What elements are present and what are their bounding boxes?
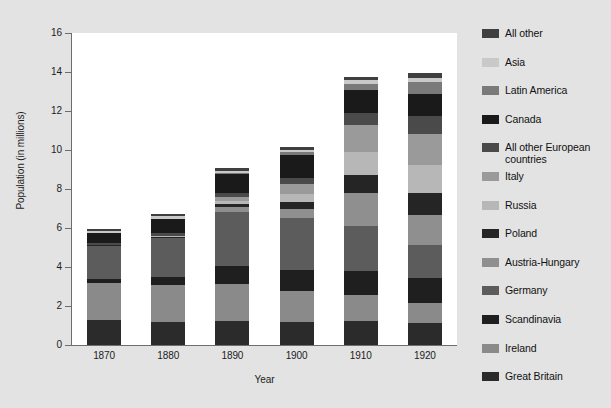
legend-swatch bbox=[482, 58, 499, 67]
x-tick-label: 1870 bbox=[74, 350, 134, 361]
x-tick-label: 1910 bbox=[331, 350, 391, 361]
x-tick-label: 1900 bbox=[267, 350, 327, 361]
stacked-bar bbox=[87, 33, 121, 345]
bar-segment bbox=[408, 116, 442, 134]
legend-label: Scandinavia bbox=[505, 314, 561, 326]
bar-segment bbox=[87, 246, 121, 279]
legend-swatch bbox=[482, 172, 499, 181]
chart-legend: All otherAsiaLatin AmericaCanadaAll othe… bbox=[482, 28, 610, 400]
bar-segment bbox=[344, 321, 378, 345]
legend-item: All other bbox=[482, 28, 610, 48]
y-tick-label: 14 bbox=[14, 67, 62, 77]
y-tick-mark bbox=[65, 345, 71, 346]
legend-item: Russia bbox=[482, 200, 610, 220]
stacked-bar bbox=[215, 33, 249, 345]
stacked-bar bbox=[344, 33, 378, 345]
legend-swatch bbox=[482, 229, 499, 238]
bar-segment bbox=[151, 219, 185, 233]
legend-item: Great Britain bbox=[482, 371, 610, 391]
y-tick-mark bbox=[65, 33, 71, 34]
bar-segment bbox=[280, 218, 314, 270]
legend-label: Germany bbox=[505, 285, 547, 297]
bar-segment bbox=[408, 94, 442, 116]
legend-label: Russia bbox=[505, 200, 537, 212]
bar-segment bbox=[408, 82, 442, 94]
bar-segment bbox=[344, 193, 378, 226]
y-tick-mark bbox=[65, 306, 71, 307]
bar-segment bbox=[87, 320, 121, 345]
bar-segment bbox=[344, 125, 378, 151]
legend-item: All other European countries bbox=[482, 142, 610, 162]
legend-label: Poland bbox=[505, 228, 537, 240]
legend-item: Ireland bbox=[482, 343, 610, 363]
chart-figure: 0246810121416 Population (in millions) Y… bbox=[0, 0, 611, 408]
bar-segment bbox=[87, 233, 121, 243]
bar-segment bbox=[215, 174, 249, 193]
y-tick-label: 16 bbox=[14, 28, 62, 38]
y-tick-label: 4 bbox=[14, 262, 62, 272]
legend-label: Italy bbox=[505, 171, 524, 183]
legend-swatch bbox=[482, 372, 499, 381]
bar-segment bbox=[280, 194, 314, 202]
bar-segment bbox=[151, 277, 185, 286]
bar-segment bbox=[408, 134, 442, 165]
legend-item: Asia bbox=[482, 57, 610, 77]
bar-segment bbox=[215, 266, 249, 284]
y-tick-mark bbox=[65, 150, 71, 151]
y-tick-mark bbox=[65, 228, 71, 229]
legend-swatch bbox=[482, 143, 499, 152]
x-tick-label: 1890 bbox=[202, 350, 262, 361]
legend-item: Poland bbox=[482, 228, 610, 248]
legend-label: Great Britain bbox=[505, 371, 563, 383]
bar-segment bbox=[344, 175, 378, 193]
legend-label: Canada bbox=[505, 114, 541, 126]
x-tick-label: 1920 bbox=[395, 350, 455, 361]
y-tick-mark bbox=[65, 189, 71, 190]
legend-swatch bbox=[482, 86, 499, 95]
bar-segment bbox=[215, 284, 249, 320]
legend-swatch bbox=[482, 29, 499, 38]
y-tick-label: 0 bbox=[14, 340, 62, 350]
bar-segment bbox=[344, 271, 378, 295]
stacked-bar bbox=[151, 33, 185, 345]
y-tick-mark bbox=[65, 72, 71, 73]
bar-segment bbox=[280, 155, 314, 178]
legend-label: Austria-Hungary bbox=[505, 257, 579, 269]
legend-swatch bbox=[482, 344, 499, 353]
legend-item: Austria-Hungary bbox=[482, 257, 610, 277]
legend-swatch bbox=[482, 115, 499, 124]
bar-segment bbox=[344, 113, 378, 125]
bar-segment bbox=[280, 291, 314, 323]
bar-segment bbox=[280, 184, 314, 193]
legend-swatch bbox=[482, 286, 499, 295]
bar-segment bbox=[408, 303, 442, 323]
legend-label: Asia bbox=[505, 57, 525, 69]
bar-segment bbox=[280, 322, 314, 345]
legend-label: All other European countries bbox=[505, 142, 590, 165]
legend-swatch bbox=[482, 201, 499, 210]
bar-segment bbox=[280, 209, 314, 218]
legend-swatch bbox=[482, 258, 499, 267]
legend-item: Scandinavia bbox=[482, 314, 610, 334]
y-axis-title: Population (in millions) bbox=[15, 81, 26, 241]
stacked-bar bbox=[408, 33, 442, 345]
y-tick-label: 2 bbox=[14, 301, 62, 311]
legend-label: Latin America bbox=[505, 85, 567, 97]
plot-area bbox=[72, 33, 457, 345]
bar-segment bbox=[280, 270, 314, 291]
bar-segment bbox=[408, 165, 442, 192]
bar-segment bbox=[215, 321, 249, 345]
x-axis-title: Year bbox=[72, 374, 457, 385]
legend-item: Canada bbox=[482, 114, 610, 134]
y-axis-line bbox=[71, 33, 72, 346]
x-tick-label: 1880 bbox=[138, 350, 198, 361]
bar-segment bbox=[344, 226, 378, 271]
legend-item: Germany bbox=[482, 285, 610, 305]
legend-item: Latin America bbox=[482, 85, 610, 105]
bar-segment bbox=[151, 238, 185, 276]
bar-segment bbox=[344, 152, 378, 175]
legend-item: Italy bbox=[482, 171, 610, 191]
bar-segment bbox=[344, 295, 378, 321]
y-tick-mark bbox=[65, 111, 71, 112]
bar-segment bbox=[87, 283, 121, 319]
